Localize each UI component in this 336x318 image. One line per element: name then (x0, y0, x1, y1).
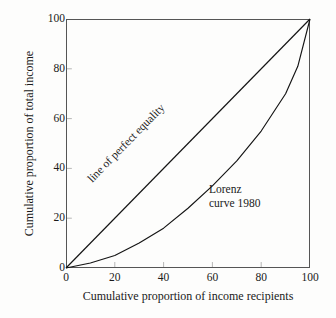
lorenz-curve-figure: 0 20 40 60 80 100 0 20 40 60 80 100 Cumu… (0, 0, 336, 318)
y-tick-label-40: 40 (54, 163, 66, 175)
x-tick-label-20: 20 (109, 272, 121, 284)
y-tick-label-60: 60 (54, 113, 66, 125)
y-tick-label-0: 0 (59, 262, 65, 274)
y-axis-ticks (66, 69, 72, 218)
x-axis-title: Cumulative proportion of income recipien… (66, 289, 310, 304)
x-axis-ticks (115, 262, 261, 268)
lorenz-annotation-line-1: Lorenz (209, 182, 260, 196)
x-tick-label-40: 40 (158, 272, 170, 284)
y-tick-label-20: 20 (54, 212, 66, 224)
x-tick-label-80: 80 (255, 272, 267, 284)
line-of-perfect-equality (66, 19, 310, 268)
y-tick-label-100: 100 (48, 13, 65, 25)
lorenz-curve-annotation: Lorenz curve 1980 (209, 182, 260, 210)
plot-canvas (66, 19, 310, 268)
lorenz-annotation-line-2: curve 1980 (209, 196, 260, 210)
y-tick-label-80: 80 (54, 63, 66, 75)
x-tick-label-100: 100 (301, 272, 318, 284)
x-tick-label-60: 60 (207, 272, 219, 284)
y-axis-title: Cumulative proportion of total income (22, 19, 38, 268)
